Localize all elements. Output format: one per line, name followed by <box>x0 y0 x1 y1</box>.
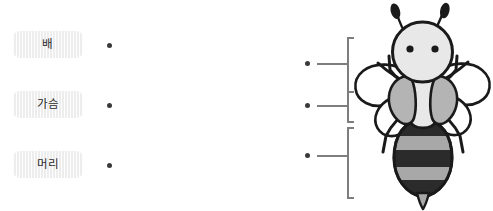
connector-thorax[interactable] <box>300 90 352 124</box>
eye-right <box>431 45 438 52</box>
label-chip-abdomen[interactable]: 배 <box>13 31 83 58</box>
connector-dot-icon-thorax-label[interactable] <box>107 103 112 108</box>
bracket-line-icon-abdomen-spine <box>347 127 349 199</box>
connector-dot-icon-abdomen-label[interactable] <box>107 43 112 48</box>
connector-dot-icon-head-target[interactable] <box>305 61 310 66</box>
bracket-line-icon-thorax-spine <box>347 91 349 123</box>
connector-abdomen[interactable] <box>300 126 352 200</box>
label-row-thorax[interactable]: 가슴 <box>0 91 140 121</box>
bracket-line-icon-abdomen-tick <box>317 155 348 157</box>
bracket-line-icon-head-spine <box>347 37 349 93</box>
connector-dot-icon-thorax-target[interactable] <box>305 103 310 108</box>
connector-dot-icon-head-label[interactable] <box>107 163 112 168</box>
label-text-head: 머리 <box>37 159 60 171</box>
label-row-abdomen[interactable]: 배 <box>0 31 140 61</box>
stinger <box>417 193 429 209</box>
label-row-head[interactable]: 머리 <box>0 151 140 181</box>
bracket-line-icon-head-tick <box>317 63 348 65</box>
head <box>393 22 453 82</box>
connector-head[interactable] <box>300 36 352 94</box>
eye-left <box>406 45 413 52</box>
connector-dot-icon-abdomen-target[interactable] <box>305 153 310 158</box>
matching-diagram: 배 가슴 머리 <box>0 0 493 211</box>
bee-illustration <box>352 2 493 211</box>
label-text-thorax: 가슴 <box>37 99 60 111</box>
label-text-abdomen: 배 <box>42 39 53 51</box>
label-chip-thorax[interactable]: 가슴 <box>13 91 83 118</box>
bracket-line-icon-thorax-tick <box>317 105 348 107</box>
label-chip-head[interactable]: 머리 <box>13 151 83 178</box>
